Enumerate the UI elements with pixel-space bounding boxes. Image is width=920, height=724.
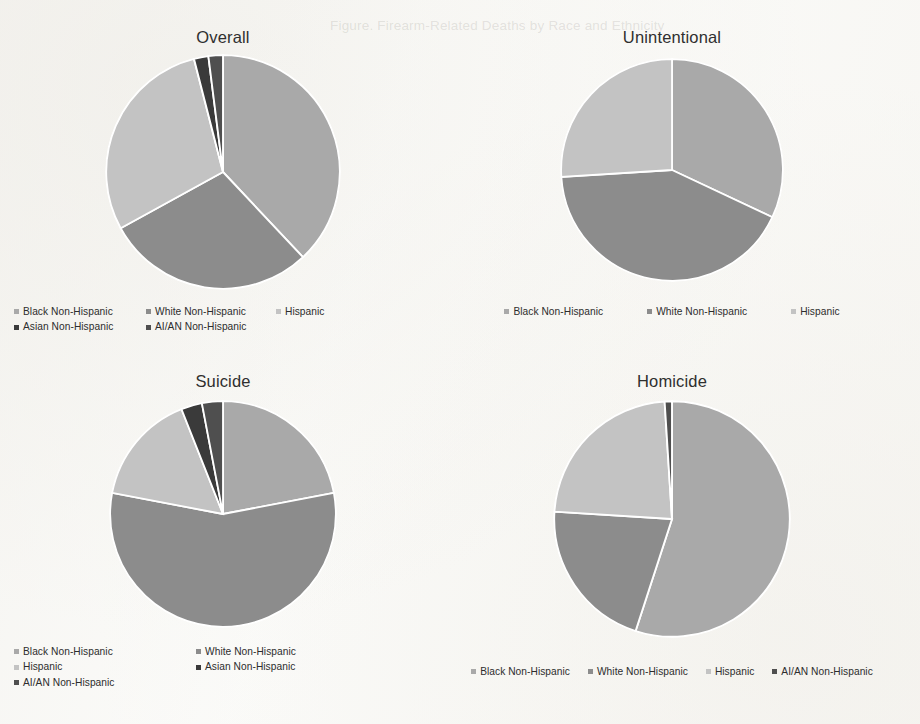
legend-label: White Non-Hispanic: [155, 304, 246, 319]
legend-label: Hispanic: [800, 304, 839, 319]
legend-swatch-icon: [14, 649, 19, 654]
legend-item[interactable]: Asian Non-Hispanic: [14, 319, 146, 334]
chart-panel-unintentional: Unintentional Black Non-HispanicWhite No…: [452, 28, 892, 319]
legend-row: Black Non-HispanicWhite Non-HispanicHisp…: [14, 304, 438, 319]
pie-chart-homicide[interactable]: [553, 400, 791, 638]
legend-overall: Black Non-HispanicWhite Non-HispanicHisp…: [8, 304, 438, 335]
pie-slice[interactable]: [554, 402, 672, 520]
legend-swatch-icon: [504, 309, 509, 314]
legend-swatch-icon: [196, 665, 201, 670]
legend-label: Asian Non-Hispanic: [205, 659, 295, 674]
legend-label: Hispanic: [23, 659, 62, 674]
legend-swatch-icon: [276, 309, 281, 314]
legend-swatch-icon: [588, 669, 593, 674]
legend-swatch-icon: [14, 309, 19, 314]
legend-swatch-icon: [647, 309, 652, 314]
legend-label: AI/AN Non-Hispanic: [155, 319, 247, 334]
legend-swatch-icon: [14, 325, 19, 330]
chart-panel-overall: Overall Black Non-HispanicWhite Non-Hisp…: [8, 28, 438, 335]
legend-row: Black Non-HispanicWhite Non-HispanicHisp…: [452, 304, 892, 319]
legend-label: Hispanic: [285, 304, 324, 319]
legend-item[interactable]: AI/AN Non-Hispanic: [772, 664, 873, 679]
legend-swatch-icon: [146, 309, 151, 314]
legend-item[interactable]: White Non-Hispanic: [146, 304, 276, 319]
legend-label: White Non-Hispanic: [597, 664, 688, 679]
legend-row: Black Non-HispanicWhite Non-HispanicHisp…: [452, 664, 892, 679]
legend-homicide: Black Non-HispanicWhite Non-HispanicHisp…: [452, 664, 892, 679]
legend-label: Black Non-Hispanic: [513, 304, 603, 319]
pie-svg-overall: [105, 54, 341, 290]
legend-swatch-icon: [471, 669, 476, 674]
pie-svg-suicide: [109, 400, 337, 628]
pie-chart-unintentional[interactable]: [560, 58, 784, 282]
legend-label: AI/AN Non-Hispanic: [23, 675, 115, 690]
legend-row: AI/AN Non-Hispanic: [14, 675, 438, 690]
legend-item[interactable]: AI/AN Non-Hispanic: [14, 675, 196, 690]
legend-row: Asian Non-HispanicAI/AN Non-Hispanic: [14, 319, 438, 334]
legend-unintentional: Black Non-HispanicWhite Non-HispanicHisp…: [452, 304, 892, 319]
pie-svg-homicide: [553, 400, 791, 638]
legend-item[interactable]: Hispanic: [706, 664, 754, 679]
legend-label: AI/AN Non-Hispanic: [781, 664, 873, 679]
legend-swatch-icon: [14, 680, 19, 685]
legend-row: HispanicAsian Non-Hispanic: [14, 659, 438, 674]
legend-item[interactable]: White Non-Hispanic: [588, 664, 688, 679]
legend-label: Black Non-Hispanic: [480, 664, 570, 679]
chart-title-homicide: Homicide: [452, 372, 892, 390]
chart-title-unintentional: Unintentional: [452, 28, 892, 46]
legend-item[interactable]: White Non-Hispanic: [647, 304, 747, 319]
legend-item[interactable]: Hispanic: [276, 304, 324, 319]
chart-title-overall: Overall: [8, 28, 438, 46]
legend-label: White Non-Hispanic: [205, 644, 296, 659]
legend-item[interactable]: Black Non-Hispanic: [14, 644, 196, 659]
pie-svg-unintentional: [560, 58, 784, 282]
legend-label: Black Non-Hispanic: [23, 304, 113, 319]
pie-chart-suicide[interactable]: [109, 400, 337, 628]
legend-label: Asian Non-Hispanic: [23, 319, 113, 334]
chart-panel-homicide: Homicide Black Non-HispanicWhite Non-His…: [452, 372, 892, 679]
legend-item[interactable]: Black Non-Hispanic: [471, 664, 570, 679]
legend-item[interactable]: Black Non-Hispanic: [504, 304, 603, 319]
legend-item[interactable]: AI/AN Non-Hispanic: [146, 319, 247, 334]
legend-item[interactable]: Black Non-Hispanic: [14, 304, 146, 319]
legend-item[interactable]: White Non-Hispanic: [196, 644, 296, 659]
chart-title-suicide: Suicide: [8, 372, 438, 390]
legend-label: Black Non-Hispanic: [23, 644, 113, 659]
chart-panel-suicide: Suicide Black Non-HispanicWhite Non-Hisp…: [8, 372, 438, 690]
legend-swatch-icon: [772, 669, 777, 674]
legend-swatch-icon: [791, 309, 796, 314]
legend-suicide: Black Non-HispanicWhite Non-Hispanic His…: [8, 644, 438, 690]
legend-row: Black Non-HispanicWhite Non-Hispanic: [14, 644, 438, 659]
legend-swatch-icon: [146, 325, 151, 330]
legend-item[interactable]: Hispanic: [791, 304, 839, 319]
legend-label: White Non-Hispanic: [656, 304, 747, 319]
legend-swatch-icon: [196, 649, 201, 654]
legend-item[interactable]: Asian Non-Hispanic: [196, 659, 295, 674]
legend-item[interactable]: Hispanic: [14, 659, 196, 674]
legend-swatch-icon: [706, 669, 711, 674]
pie-chart-overall[interactable]: [105, 54, 341, 290]
legend-label: Hispanic: [715, 664, 754, 679]
legend-swatch-icon: [14, 665, 19, 670]
pie-slice[interactable]: [561, 59, 672, 177]
